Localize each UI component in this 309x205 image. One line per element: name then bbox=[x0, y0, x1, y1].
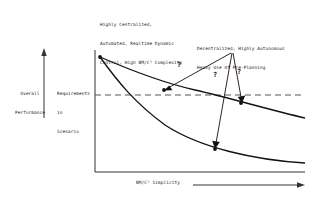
question-mark-1: ? bbox=[177, 61, 181, 69]
x-axis-direction-arrow-head bbox=[297, 182, 305, 187]
requirements-threshold-label-line-2: in bbox=[57, 110, 90, 116]
x-axis-label: BM/C³ Simplicity bbox=[136, 180, 180, 186]
annotation-centralized-line-1: Highly Centralized, bbox=[100, 22, 182, 28]
annotation-centralized-line-3: Control, High BM/C³ Complexity bbox=[100, 60, 182, 66]
annotation-decentralized: Decentralized, Highly Autonomous Heavy U… bbox=[197, 34, 285, 84]
annotation-centralized-line-2: Automated, Realtime Dynamic bbox=[100, 41, 182, 47]
requirements-threshold-label: Requirements in Scenario bbox=[57, 79, 90, 147]
performance-tradeoff-figure: Highly Centralized, Automated, Realtime … bbox=[0, 0, 309, 205]
mid-upper-point-marker bbox=[162, 88, 166, 92]
question-mark-3: ? bbox=[237, 68, 241, 76]
y-axis-label-line-1: Overall bbox=[9, 91, 51, 97]
requirements-threshold-label-line-1: Requirements bbox=[57, 91, 90, 97]
requirements-threshold-label-line-3: Scenario bbox=[57, 129, 90, 135]
annotation-decentralized-line-1: Decentralized, Highly Autonomous bbox=[197, 46, 285, 52]
right-upper-point-marker bbox=[239, 101, 243, 105]
y-axis-direction-arrow-head bbox=[41, 48, 46, 56]
y-axis-label-line-2: Performance bbox=[9, 110, 51, 116]
y-axis-label: Overall Performance bbox=[9, 79, 51, 129]
annotation-centralized: Highly Centralized, Automated, Realtime … bbox=[100, 10, 182, 78]
right-lower-point-marker bbox=[213, 147, 217, 151]
question-mark-2: ? bbox=[213, 71, 217, 79]
